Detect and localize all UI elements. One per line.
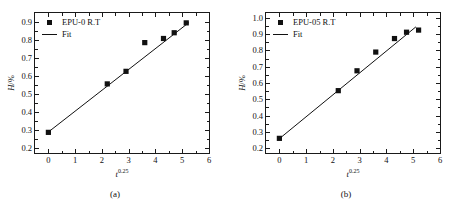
y-axis-minor-tick — [207, 31, 210, 32]
x-axis-minor-tick — [169, 151, 170, 154]
y-axis-tick — [205, 22, 209, 23]
y-axis-tick — [205, 76, 209, 77]
x-axis-tick — [102, 13, 103, 17]
legend-label-series: EPU-0 R.T — [62, 18, 100, 27]
y-axis-tick — [205, 40, 209, 41]
y-axis-minor-tick — [266, 107, 269, 108]
x-axis-minor-tick — [89, 151, 90, 154]
y-axis-minor-tick — [35, 49, 38, 50]
figure-container: EPU-0 R.T Fit 0.20.30.40.50.60.70.80.901… — [0, 0, 461, 209]
x-axis-minor-tick — [62, 13, 63, 16]
x-axis-tick-label: 2 — [100, 156, 104, 165]
x-axis-tick-label: 1 — [304, 156, 308, 165]
x-axis-minor-tick — [169, 13, 170, 16]
y-axis-minor-tick — [438, 26, 441, 27]
x-axis-minor-tick — [115, 151, 116, 154]
y-axis-title-unit-b: /% — [237, 75, 247, 84]
data-point-marker — [142, 40, 147, 45]
x-axis-minor-tick — [196, 151, 197, 154]
y-axis-minor-tick — [266, 26, 269, 27]
x-axis-tick — [129, 149, 130, 153]
y-axis-tick — [436, 99, 440, 100]
x-axis-tick — [182, 149, 183, 153]
y-axis-tick-label: 0.7 — [252, 62, 263, 71]
x-axis-minor-tick — [293, 13, 294, 16]
y-axis-tick — [436, 83, 440, 84]
x-axis-tick — [102, 149, 103, 153]
y-axis-minor-tick — [438, 107, 441, 108]
x-axis-tick — [306, 149, 307, 153]
x-axis-tick-label: 3 — [358, 156, 362, 165]
x-axis-tick — [386, 13, 387, 17]
y-axis-minor-tick — [35, 103, 38, 104]
x-axis-tick — [360, 149, 361, 153]
x-axis-minor-tick — [293, 151, 294, 154]
legend-label-fit: Fit — [293, 30, 302, 39]
plot-frame-b: EPU-05 R.T Fit 0.20.30.40.50.60.70.80.91… — [265, 12, 441, 154]
legend-entry-fit: Fit — [272, 29, 336, 39]
y-axis-tick — [436, 50, 440, 51]
y-axis-minor-tick — [266, 42, 269, 43]
x-axis-minor-tick — [142, 13, 143, 16]
y-axis-title-symbol-a: H — [6, 85, 16, 91]
legend-entry-series: EPU-05 R.T — [272, 17, 336, 27]
x-axis-minor-tick — [373, 13, 374, 16]
y-axis-minor-tick — [207, 103, 210, 104]
y-axis-tick — [205, 112, 209, 113]
x-axis-minor-tick — [346, 13, 347, 16]
square-marker-icon — [41, 17, 57, 27]
y-axis-minor-tick — [438, 91, 441, 92]
x-axis-tick — [209, 149, 210, 153]
legend-a: EPU-0 R.T Fit — [41, 17, 100, 39]
y-axis-tick — [35, 112, 39, 113]
y-axis-tick — [35, 76, 39, 77]
y-axis-minor-tick — [35, 31, 38, 32]
x-axis-minor-tick — [196, 13, 197, 16]
y-axis-title-b: H/% — [238, 75, 247, 91]
y-axis-tick — [436, 34, 440, 35]
y-axis-tick-label: 1.0 — [252, 14, 263, 23]
y-axis-minor-tick — [35, 139, 38, 140]
y-axis-minor-tick — [207, 121, 210, 122]
x-axis-tick — [279, 13, 280, 17]
y-axis-minor-tick — [35, 67, 38, 68]
y-axis-tick — [205, 130, 209, 131]
x-axis-tick — [333, 13, 334, 17]
y-axis-minor-tick — [438, 124, 441, 125]
x-axis-tick — [306, 13, 307, 17]
y-axis-minor-tick — [438, 42, 441, 43]
y-axis-minor-tick — [35, 85, 38, 86]
data-point-marker — [354, 68, 359, 73]
x-axis-tick — [413, 149, 414, 153]
data-point-marker — [416, 27, 421, 32]
legend-label-fit: Fit — [62, 30, 71, 39]
x-axis-tick — [75, 13, 76, 17]
y-axis-tick-label: 0.6 — [252, 79, 263, 88]
x-axis-tick-label: 1 — [73, 156, 77, 165]
fit-line — [279, 27, 416, 139]
y-axis-tick — [266, 132, 270, 133]
y-axis-tick — [436, 132, 440, 133]
y-axis-tick — [266, 116, 270, 117]
y-axis-tick-label: 0.3 — [21, 125, 32, 134]
x-axis-tick-label: 0 — [46, 156, 50, 165]
y-axis-tick-label: 0.6 — [21, 72, 32, 81]
x-axis-minor-tick — [142, 151, 143, 154]
y-axis-tick — [205, 94, 209, 95]
plot-frame-a: EPU-0 R.T Fit 0.20.30.40.50.60.70.80.901… — [34, 12, 210, 154]
y-axis-tick — [266, 34, 270, 35]
legend-b: EPU-05 R.T Fit — [272, 17, 336, 39]
panel-caption-b: (b) — [231, 190, 461, 199]
x-axis-tick — [440, 13, 441, 17]
data-point-marker — [392, 36, 397, 41]
x-axis-tick-label: 4 — [153, 156, 157, 165]
y-axis-tick-label: 0.5 — [252, 95, 263, 104]
y-axis-title-a: H/% — [7, 75, 16, 91]
legend-label-series: EPU-05 R.T — [293, 18, 336, 27]
y-axis-tick — [266, 99, 270, 100]
y-axis-tick — [266, 50, 270, 51]
y-axis-tick — [35, 130, 39, 131]
y-axis-tick — [266, 67, 270, 68]
x-axis-tick-label: 0 — [277, 156, 281, 165]
y-axis-tick-label: 0.2 — [21, 143, 32, 152]
